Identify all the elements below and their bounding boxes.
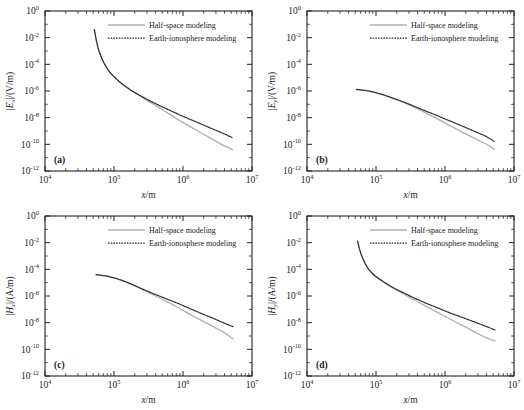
y-tick-label: 10-8 <box>24 316 39 328</box>
x-tick-exponent: 5 <box>379 378 382 385</box>
y-tick-exponent: -4 <box>34 262 40 269</box>
x-axis-label: x/m <box>140 395 156 405</box>
y-tick-label: 100 <box>26 4 39 16</box>
y-tick-exponent: -12 <box>293 164 301 171</box>
y-axis-label-unit: |/(A/m) <box>267 276 278 304</box>
y-tick-exponent: -8 <box>296 111 301 118</box>
x-tick-label: 107 <box>246 378 259 390</box>
x-axis-label: x/m <box>402 190 418 200</box>
series-line-half-space <box>94 30 232 150</box>
legend-label-earth-ionosphere: Earth-ionosphere modeling <box>411 239 498 248</box>
x-axis-label: x/m <box>140 190 156 200</box>
x-tick-exponent: 7 <box>517 173 520 180</box>
x-tick-exponent: 7 <box>517 378 520 385</box>
x-tick-label: 104 <box>39 378 53 390</box>
y-tick-label: 10-2 <box>286 31 301 43</box>
y-axis-label-unit: |/(V/m) <box>267 72 278 100</box>
y-tick-exponent: -10 <box>293 342 301 349</box>
x-tick-exponent: 4 <box>310 173 314 180</box>
y-tick-label: 10-12 <box>21 164 39 176</box>
x-tick-label: 105 <box>108 378 121 390</box>
y-tick-exponent: -12 <box>31 369 39 376</box>
x-tick-exponent: 6 <box>448 378 451 385</box>
series-line-half-space <box>358 241 495 340</box>
legend-label-half-space: Half-space modeling <box>149 21 216 30</box>
y-tick-exponent: -12 <box>293 369 301 376</box>
y-tick-label: 10-10 <box>21 342 39 354</box>
x-tick-label: 106 <box>177 378 190 390</box>
panel-b: 10410510610710010-210-410-610-810-1010-1… <box>262 0 524 205</box>
x-tick-label: 107 <box>508 378 521 390</box>
x-tick-label: 104 <box>39 173 53 185</box>
x-tick-label: 106 <box>177 173 190 185</box>
y-axis-label: |Hy|/(A/m) <box>267 276 278 315</box>
x-tick-label: 104 <box>301 173 315 185</box>
panel-b-plot: 10410510610710010-210-410-610-810-1010-1… <box>262 0 524 205</box>
x-tick-exponent: 6 <box>448 173 451 180</box>
x-tick-label: 106 <box>439 378 452 390</box>
y-tick-label: 10-8 <box>24 111 39 123</box>
y-tick-exponent: 0 <box>298 4 301 11</box>
y-tick-exponent: 0 <box>36 4 39 11</box>
y-tick-exponent: -2 <box>296 236 301 243</box>
x-tick-exponent: 6 <box>186 378 189 385</box>
curves-group <box>94 30 232 150</box>
x-tick-exponent: 4 <box>48 378 52 385</box>
legend: Half-space modelingEarth-ionosphere mode… <box>370 226 498 248</box>
legend: Half-space modelingEarth-ionosphere mode… <box>370 21 498 43</box>
x-tick-exponent: 7 <box>255 173 258 180</box>
panel-c-plot: 10410510610710010-210-410-610-810-1010-1… <box>0 205 262 410</box>
y-tick-label: 10-8 <box>286 316 301 328</box>
x-tick-label: 106 <box>439 173 452 185</box>
x-tick-exponent: 5 <box>117 378 120 385</box>
x-tick-exponent: 5 <box>117 173 120 180</box>
y-tick-label: 100 <box>288 4 301 16</box>
panel-label: (b) <box>316 155 328 166</box>
x-tick-exponent: 6 <box>186 173 189 180</box>
legend-label-earth-ionosphere: Earth-ionosphere modeling <box>411 34 498 43</box>
legend: Half-space modelingEarth-ionosphere mode… <box>108 21 236 43</box>
y-tick-exponent: -2 <box>296 31 301 38</box>
y-tick-exponent: -6 <box>34 289 39 296</box>
x-axis-label-unit: /m <box>408 395 419 405</box>
y-tick-label: 10-4 <box>24 262 40 274</box>
y-tick-label: 10-6 <box>286 84 301 96</box>
y-axis-label: |Hx|/(A/m) <box>5 276 16 315</box>
y-tick-exponent: -8 <box>34 111 39 118</box>
y-tick-label: 10-4 <box>286 262 302 274</box>
panel-d: 10410510610710010-210-410-610-810-1010-1… <box>262 205 524 410</box>
panel-d-plot: 10410510610710010-210-410-610-810-1010-1… <box>262 205 524 410</box>
series-line-earth-ionosphere <box>94 30 232 138</box>
y-tick-label: 10-12 <box>283 369 301 381</box>
y-axis-label: |Ex|/(V/m) <box>5 72 16 110</box>
y-tick-label: 10-12 <box>283 164 301 176</box>
y-tick-label: 10-10 <box>21 137 39 149</box>
y-tick-exponent: 0 <box>298 209 301 216</box>
y-tick-exponent: -6 <box>296 84 301 91</box>
legend-label-earth-ionosphere: Earth-ionosphere modeling <box>149 239 236 248</box>
y-tick-exponent: -10 <box>293 137 301 144</box>
x-tick-exponent: 4 <box>310 378 314 385</box>
x-tick-label: 107 <box>246 173 259 185</box>
x-tick-exponent: 5 <box>379 173 382 180</box>
y-tick-label: 10-12 <box>21 369 39 381</box>
y-tick-label: 10-6 <box>24 289 39 301</box>
x-tick-label: 105 <box>370 173 383 185</box>
x-axis-label-unit: /m <box>146 190 157 200</box>
y-tick-exponent: -6 <box>34 84 39 91</box>
y-tick-label: 10-4 <box>24 57 40 69</box>
legend: Half-space modelingEarth-ionosphere mode… <box>108 226 236 248</box>
y-tick-exponent: -2 <box>34 31 39 38</box>
panel-label: (c) <box>54 360 65 371</box>
figure-four-panel-field-plots: 10410510610710010-210-410-610-810-1010-1… <box>0 0 524 410</box>
panel-label: (d) <box>316 360 328 371</box>
y-tick-exponent: -12 <box>31 164 39 171</box>
y-tick-exponent: -8 <box>34 316 39 323</box>
y-tick-exponent: -10 <box>31 137 39 144</box>
y-tick-exponent: -6 <box>296 289 301 296</box>
legend-label-half-space: Half-space modeling <box>411 21 478 30</box>
y-tick-exponent: -10 <box>31 342 39 349</box>
panel-a: 10410510610710010-210-410-610-810-1010-1… <box>0 0 262 205</box>
y-tick-exponent: -4 <box>296 262 302 269</box>
y-tick-label: 100 <box>288 209 301 221</box>
